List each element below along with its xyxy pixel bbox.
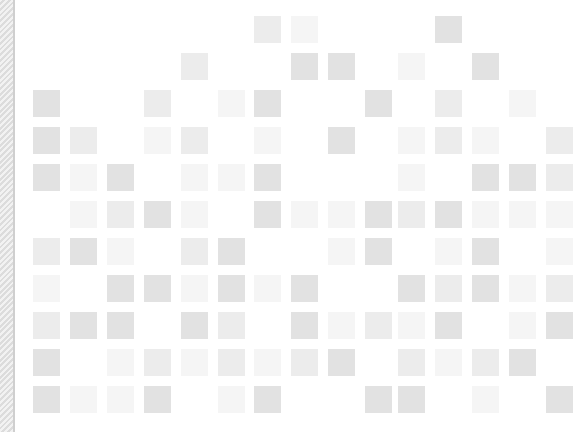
grid-square bbox=[70, 386, 97, 413]
grid-square bbox=[181, 349, 208, 376]
grid-square bbox=[328, 127, 355, 154]
grid-square bbox=[107, 312, 134, 339]
grid-square bbox=[33, 312, 60, 339]
grid-square bbox=[218, 164, 245, 191]
grid-square bbox=[546, 275, 573, 302]
grid-square bbox=[509, 90, 536, 117]
grid-square bbox=[70, 164, 97, 191]
grid-square bbox=[472, 386, 499, 413]
grid-square bbox=[218, 386, 245, 413]
grid-square bbox=[435, 127, 462, 154]
grid-square bbox=[181, 275, 208, 302]
grid-square bbox=[472, 127, 499, 154]
grid-square bbox=[398, 386, 425, 413]
grid-square bbox=[218, 238, 245, 265]
grid-square bbox=[254, 164, 281, 191]
grid-square bbox=[291, 53, 318, 80]
grid-square bbox=[33, 90, 60, 117]
grid-square bbox=[291, 16, 318, 43]
grid-square bbox=[509, 312, 536, 339]
grid-square bbox=[328, 238, 355, 265]
grid-square bbox=[435, 238, 462, 265]
grid-square bbox=[472, 201, 499, 228]
grid-square bbox=[472, 349, 499, 376]
grid-square bbox=[398, 312, 425, 339]
grid-square bbox=[398, 53, 425, 80]
grid-square bbox=[328, 312, 355, 339]
grid-square bbox=[70, 238, 97, 265]
grid-square bbox=[435, 201, 462, 228]
grid-square bbox=[254, 386, 281, 413]
grid-square bbox=[70, 127, 97, 154]
grid-square bbox=[435, 275, 462, 302]
grid-square bbox=[435, 90, 462, 117]
grid-square bbox=[33, 386, 60, 413]
grid-square bbox=[144, 201, 171, 228]
grid-square bbox=[546, 238, 573, 265]
grid-square bbox=[291, 349, 318, 376]
grid-square bbox=[365, 238, 392, 265]
grid-square bbox=[328, 349, 355, 376]
grid-square bbox=[107, 164, 134, 191]
tile-grid bbox=[0, 0, 577, 432]
grid-square bbox=[144, 127, 171, 154]
grid-square bbox=[144, 386, 171, 413]
grid-square bbox=[398, 349, 425, 376]
grid-square bbox=[472, 53, 499, 80]
grid-square bbox=[398, 127, 425, 154]
grid-square bbox=[107, 349, 134, 376]
grid-square bbox=[291, 312, 318, 339]
grid-square bbox=[546, 164, 573, 191]
grid-square bbox=[218, 312, 245, 339]
grid-square bbox=[218, 90, 245, 117]
grid-square bbox=[435, 312, 462, 339]
grid-square bbox=[33, 238, 60, 265]
grid-square bbox=[546, 201, 573, 228]
grid-square bbox=[33, 127, 60, 154]
grid-square bbox=[365, 386, 392, 413]
grid-square bbox=[291, 275, 318, 302]
grid-square bbox=[472, 238, 499, 265]
grid-square bbox=[181, 127, 208, 154]
grid-square bbox=[398, 201, 425, 228]
grid-square bbox=[291, 201, 318, 228]
grid-square bbox=[33, 275, 60, 302]
grid-square bbox=[509, 164, 536, 191]
grid-square bbox=[70, 312, 97, 339]
grid-square bbox=[254, 275, 281, 302]
grid-square bbox=[107, 386, 134, 413]
grid-square bbox=[509, 201, 536, 228]
grid-square bbox=[472, 164, 499, 191]
grid-square bbox=[218, 349, 245, 376]
grid-square bbox=[107, 201, 134, 228]
grid-square bbox=[144, 349, 171, 376]
grid-square bbox=[546, 386, 573, 413]
grid-square bbox=[254, 349, 281, 376]
grid-square bbox=[365, 90, 392, 117]
grid-square bbox=[181, 164, 208, 191]
grid-square bbox=[546, 312, 573, 339]
grid-square bbox=[435, 16, 462, 43]
grid-square bbox=[365, 312, 392, 339]
grid-square bbox=[144, 90, 171, 117]
grid-square bbox=[107, 238, 134, 265]
grid-square bbox=[328, 53, 355, 80]
grid-square bbox=[254, 90, 281, 117]
grid-square bbox=[254, 201, 281, 228]
grid-square bbox=[181, 201, 208, 228]
grid-square bbox=[33, 349, 60, 376]
grid-square bbox=[70, 201, 97, 228]
grid-square bbox=[107, 275, 134, 302]
grid-square bbox=[218, 275, 245, 302]
grid-square bbox=[435, 349, 462, 376]
grid-square bbox=[254, 16, 281, 43]
grid-square bbox=[328, 201, 355, 228]
grid-square bbox=[181, 53, 208, 80]
grid-square bbox=[398, 275, 425, 302]
grid-square bbox=[509, 275, 536, 302]
grid-square bbox=[365, 201, 392, 228]
grid-square bbox=[144, 275, 171, 302]
grid-square bbox=[472, 275, 499, 302]
grid-square bbox=[181, 312, 208, 339]
grid-square bbox=[254, 127, 281, 154]
